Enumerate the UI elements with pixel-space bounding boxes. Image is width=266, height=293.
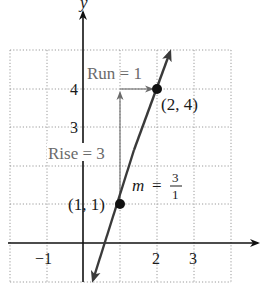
point-label-2-4: (2, 4) xyxy=(161,95,198,114)
x-tick-3: 3 xyxy=(189,250,197,267)
point-1-1 xyxy=(115,199,125,209)
y-axis-label: y xyxy=(78,0,88,12)
y-tick-3: 3 xyxy=(70,119,78,136)
x-tick-neg1: −1 xyxy=(35,250,52,267)
point-label-1-1: (1, 1) xyxy=(68,195,105,214)
line-y-equals-3x-minus-2-lower xyxy=(93,150,134,280)
svg-text:3: 3 xyxy=(172,170,179,185)
y-tick-4: 4 xyxy=(70,81,78,98)
svg-text:m: m xyxy=(132,176,144,195)
x-tick-2: 2 xyxy=(152,250,160,267)
svg-text:=: = xyxy=(152,176,162,195)
run-label: Run = 1 xyxy=(87,64,142,83)
point-2-4 xyxy=(152,84,162,94)
svg-text:1: 1 xyxy=(172,187,179,202)
rise-label: Rise = 3 xyxy=(48,144,105,163)
slope-diagram: y −1 2 3 3 4 (1, 1) (2, 4) Run = 1 Rise … xyxy=(0,0,266,293)
